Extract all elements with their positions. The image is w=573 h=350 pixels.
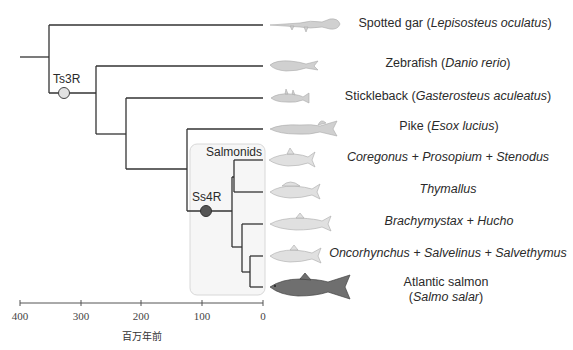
taxon-label-thymallus: Thymallus: [420, 182, 477, 196]
fish-icon-coregonus: [269, 148, 315, 167]
ts3r-node-marker: [59, 88, 70, 99]
salmonids-label: Salmonids: [206, 145, 262, 159]
taxon-label-coregonus: Coregonus + Prosopium + Stenodus: [347, 150, 549, 164]
axis-tick-300: 300: [73, 310, 90, 322]
taxon-label-atlantic-salmon: Atlantic salmon(Salmo salar): [404, 275, 489, 305]
taxon-label-zebrafish: Zebrafish (Danio rerio): [385, 56, 510, 70]
fish-icon-oncorhynchus: [270, 245, 321, 263]
axis-title: 百万年前: [122, 328, 162, 343]
axis-tick-0: 0: [260, 310, 266, 322]
ts3r-label: Ts3R: [53, 72, 80, 86]
ss4r-label: Ss4R: [192, 190, 221, 204]
taxon-label-gar: Spotted gar (Lepisosteus oculatus): [358, 16, 551, 30]
fish-icon-atlantic-salmon: [270, 273, 350, 299]
taxon-label-pike: Pike (Esox lucius): [399, 119, 498, 133]
axis-tick-100: 100: [194, 310, 211, 322]
axis-tick-200: 200: [133, 310, 150, 322]
axis-tick-400: 400: [12, 310, 29, 322]
fish-icon-pike: [270, 121, 337, 136]
taxon-label-oncorhynchus: Oncorhynchus + Salvelinus + Salvethymus: [329, 246, 567, 260]
taxon-label-stickleback: Stickleback (Gasterosteus aculeatus): [345, 89, 551, 103]
salmonids-clade-box: [190, 144, 265, 295]
taxon-label-brachymystax: Brachymystax + Hucho: [385, 214, 514, 228]
fish-icon-brachymystax: [270, 213, 331, 231]
fish-icon-zebrafish: [270, 61, 318, 71]
fish-icon-stickleback: [271, 89, 309, 103]
fish-icon-thymallus: [270, 182, 320, 199]
fish-icon-gar: [270, 19, 340, 32]
ss4r-node-marker: [201, 206, 212, 217]
time-axis: [20, 300, 263, 306]
